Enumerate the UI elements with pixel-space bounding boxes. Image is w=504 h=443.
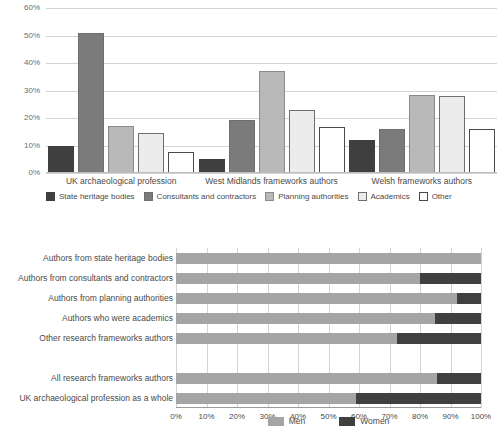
stacked-bar-segment: [176, 333, 397, 344]
legend-item[interactable]: Consultants and contractors: [144, 192, 257, 201]
category-label: Authors who were academics: [0, 313, 173, 324]
column-bar: [78, 33, 104, 173]
x-axis-line: [176, 407, 481, 408]
y-axis-tick-label: 20%: [2, 113, 40, 122]
stacked-bar-segment: [176, 393, 356, 404]
gridline: [481, 248, 482, 408]
column-bar: [168, 152, 194, 173]
column-bar: [199, 159, 225, 173]
legend-label: Men: [289, 416, 306, 426]
grouped-column-chart: 0%10%20%30%40%50%60% UK archaeological p…: [0, 0, 504, 218]
column-bar: [439, 96, 465, 173]
x-axis-baseline: [46, 172, 497, 173]
column-bar: [138, 133, 164, 173]
legend-item[interactable]: Men: [268, 416, 306, 426]
gridline: [46, 36, 497, 37]
legend-label: Planning authorities: [278, 192, 348, 201]
y-axis-tick-label: 10%: [2, 141, 40, 150]
stacked-bar-segment: [176, 373, 437, 384]
legend-swatch-icon: [144, 192, 153, 201]
legend-item[interactable]: Academics: [358, 192, 410, 201]
column-bar: [469, 129, 495, 173]
legend-swatch-icon: [265, 192, 274, 201]
gridline: [46, 63, 497, 64]
stacked-bar-segment: [457, 293, 481, 304]
column-bar: [379, 129, 405, 173]
stacked-bar-row: UK archaeological profession as a whole: [176, 393, 481, 404]
legend-label: State heritage bodies: [59, 192, 135, 201]
legend-item[interactable]: Planning authorities: [265, 192, 348, 201]
legend-swatch-icon: [268, 417, 284, 426]
x-axis-category-label: Welsh frameworks authors: [347, 176, 497, 186]
stacked-bar-row: Authors from consultants and contractors: [176, 273, 481, 284]
column-bar: [409, 95, 435, 173]
column-bar: [259, 71, 285, 173]
legend-label: Academics: [371, 192, 410, 201]
stacked-bar-segment: [420, 273, 481, 284]
stacked-bar-legend: MenWomen: [176, 416, 481, 426]
legend-label: Consultants and contractors: [157, 192, 257, 201]
column-bar: [229, 120, 255, 173]
stacked-bar-row: Authors who were academics: [176, 313, 481, 324]
legend-item[interactable]: Other: [419, 192, 452, 201]
column-chart-plot-area: 0%10%20%30%40%50%60%: [46, 8, 497, 173]
stacked-bar-segment: [176, 253, 481, 264]
gridline: [46, 8, 497, 9]
column-chart-legend: State heritage bodiesConsultants and con…: [46, 192, 497, 201]
category-label: Authors from state heritage bodies: [0, 253, 173, 264]
y-axis-tick-label: 60%: [2, 3, 40, 12]
stacked-bar-segment: [435, 313, 481, 324]
category-label: UK archaeological profession as a whole: [0, 393, 173, 404]
stacked-bar-row: All research frameworks authors: [176, 373, 481, 384]
stacked-bar-segment: [176, 273, 420, 284]
x-axis-category-label: UK archaeological profession: [46, 176, 196, 186]
legend-item[interactable]: State heritage bodies: [46, 192, 135, 201]
stacked-bar-segment: [176, 293, 457, 304]
column-bar: [349, 140, 375, 173]
category-label: All research frameworks authors: [0, 373, 173, 384]
y-axis-tick-label: 50%: [2, 31, 40, 40]
category-label: Authors from consultants and contractors: [0, 273, 173, 284]
column-bar: [108, 126, 134, 173]
stacked-bar-segment: [356, 393, 481, 404]
legend-label: Women: [360, 416, 389, 426]
stacked-bar-plot-area: Authors from state heritage bodiesAuthor…: [176, 248, 481, 408]
legend-swatch-icon: [339, 417, 355, 426]
y-axis-tick-label: 30%: [2, 86, 40, 95]
column-bar: [48, 146, 74, 173]
stacked-bar-row: Authors from state heritage bodies: [176, 253, 481, 264]
y-axis-tick-label: 40%: [2, 58, 40, 67]
stacked-bar-row: Other research frameworks authors: [176, 333, 481, 344]
category-label: Other research frameworks authors: [0, 333, 173, 344]
legend-label: Other: [432, 192, 452, 201]
stacked-bar-chart: Authors from state heritage bodiesAuthor…: [0, 228, 504, 443]
column-bar: [319, 127, 345, 173]
legend-swatch-icon: [46, 192, 55, 201]
legend-item[interactable]: Women: [339, 416, 389, 426]
x-axis-category-label: West Midlands frameworks authors: [196, 176, 346, 186]
gridline: [46, 173, 497, 174]
y-axis-tick-label: 0%: [2, 168, 40, 177]
legend-swatch-icon: [358, 192, 367, 201]
stacked-bar-segment: [437, 373, 481, 384]
stacked-bar-row: Authors from planning authorities: [176, 293, 481, 304]
column-bar: [289, 110, 315, 173]
category-label: Authors from planning authorities: [0, 293, 173, 304]
stacked-bar-segment: [176, 313, 435, 324]
stacked-bar-segment: [397, 333, 481, 344]
legend-swatch-icon: [419, 192, 428, 201]
